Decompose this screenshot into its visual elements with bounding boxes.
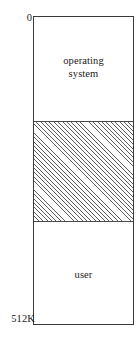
memory-layout-figure: 0 operating system user 512K — [0, 0, 140, 350]
memory-region-operating-system: operating system — [34, 17, 133, 122]
address-label-top: 0 — [27, 12, 32, 23]
address-label-bottom: 512K — [11, 313, 35, 324]
memory-region-user: user — [34, 222, 133, 324]
memory-region-label-user: user — [75, 268, 93, 281]
memory-box: operating system user — [33, 16, 134, 325]
memory-region-label-operating-system: operating system — [63, 54, 104, 80]
memory-region-hole — [34, 122, 133, 222]
